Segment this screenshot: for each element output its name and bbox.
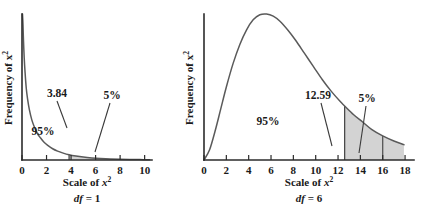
x-tick-label-df6: 4 — [246, 164, 252, 176]
chart-svg-df6: 024681012141618 12.59 95% 5% Scale of x2… — [176, 0, 422, 209]
x-tick-label-df6: 16 — [377, 164, 389, 176]
region-5-label-df6: 5% — [358, 92, 375, 104]
x-tick-label-df1: 2 — [44, 164, 50, 176]
y-axis-title-exp-df1: 2 — [1, 51, 10, 55]
x-tick-label-df6: 10 — [310, 164, 322, 176]
region-5-leader-df1 — [95, 103, 110, 152]
x-axis-title-df1: Scale of x2 — [63, 175, 112, 188]
region-95-label-df1: 95% — [32, 125, 55, 137]
critical-value-leader-df1 — [57, 101, 67, 128]
df-caption-df6: df = 6 — [296, 192, 323, 204]
critical-value-label-df6: 12.59 — [305, 89, 331, 101]
x-tick-label-df1: 4 — [68, 164, 74, 176]
x-tick-label-df6: 12 — [333, 164, 345, 176]
x-tick-label-df1: 0 — [19, 164, 25, 176]
x-tick-label-df1: 10 — [139, 164, 151, 176]
df-caption-value-df1: = 1 — [83, 192, 100, 204]
x-tick-label-df6: 0 — [201, 164, 207, 176]
x-axis-title-exp-df1: 2 — [107, 175, 111, 184]
tail-5pct-annotation-df1: 5% — [95, 89, 121, 152]
x-tick-label-df6: 8 — [291, 164, 297, 176]
y-axis-title-prefix-df6: Frequency of — [183, 60, 195, 125]
y-axis-title-df6: Frequency of x2 — [182, 51, 195, 125]
x-axis-tick-labels-df1: 0246810 — [19, 164, 150, 176]
x-axis-title-prefix-df6: Scale of — [285, 176, 324, 188]
x-axis-title-prefix-df1: Scale of — [63, 176, 102, 188]
critical-value-annotation-df6: 12.59 — [305, 89, 332, 146]
x-axis-tick-labels-df6: 024681012141618 — [201, 164, 411, 176]
y-axis-title-exp-df6: 2 — [182, 51, 191, 55]
x-axis-title-exp-df6: 2 — [329, 175, 333, 184]
distribution-curve-df1 — [22, 14, 149, 160]
x-tick-label-df6: 6 — [268, 164, 274, 176]
x-tick-label-df6: 18 — [400, 164, 412, 176]
x-tick-label-df6: 2 — [224, 164, 230, 176]
y-axis-title-df1: Frequency of x2 — [1, 51, 14, 125]
x-tick-label-df1: 6 — [93, 164, 99, 176]
df-caption-value-df6: = 6 — [305, 192, 323, 204]
y-axis-title-prefix-df1: Frequency of — [2, 60, 14, 125]
chart-panel-df6: 024681012141618 12.59 95% 5% Scale of x2… — [176, 0, 422, 209]
region-95-label-df6: 95% — [257, 115, 280, 127]
x-tick-label-df1: 8 — [117, 164, 123, 176]
critical-value-label-df1: 3.84 — [47, 87, 67, 99]
x-axis-title-df6: Scale of x2 — [285, 175, 334, 188]
region-5-label-df1: 5% — [103, 89, 120, 101]
x-tick-label-df6: 14 — [355, 164, 367, 176]
df-caption-df1: df = 1 — [74, 192, 100, 204]
critical-value-annotation-df1: 3.84 — [47, 87, 67, 128]
chi-square-distributions-figure: 0246810 3.84 95% 5% Scale of x2 df = 1 — [0, 0, 422, 209]
critical-value-leader-df6 — [321, 103, 332, 146]
